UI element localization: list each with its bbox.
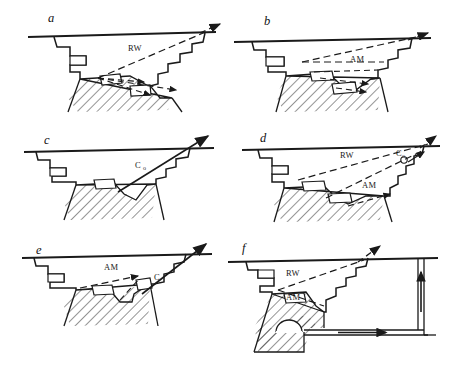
panel-c-letter: c bbox=[44, 133, 50, 147]
figure-open-pit-schemes: a RW bbox=[0, 0, 455, 370]
bench-notch-1 bbox=[92, 285, 114, 295]
bench-pocket-left bbox=[48, 274, 64, 282]
label-am: AM bbox=[350, 54, 364, 64]
label-c: C bbox=[154, 272, 160, 282]
flow-line-rw-main bbox=[98, 31, 208, 78]
label-co: C bbox=[135, 160, 141, 170]
label-am: AM bbox=[286, 292, 300, 302]
panel-c: c C o bbox=[0, 122, 228, 237]
right-bench-profile bbox=[150, 33, 205, 86]
bench-pocket-left bbox=[272, 166, 288, 174]
bench-pocket-left bbox=[70, 56, 86, 65]
panel-e-letter: e bbox=[36, 243, 42, 257]
label-rw: RW bbox=[128, 43, 142, 53]
panel-e: e AM C bbox=[0, 232, 228, 370]
panel-f: f bbox=[228, 232, 455, 370]
bench-notch-1 bbox=[94, 179, 116, 189]
bench-pocket-left bbox=[266, 57, 284, 66]
label-am: AM bbox=[362, 180, 376, 190]
rock-right-edge bbox=[172, 98, 182, 112]
ground-line bbox=[28, 32, 216, 37]
bench-pocket-left bbox=[50, 168, 66, 176]
label-rw: RW bbox=[340, 150, 354, 160]
panel-d-letter: d bbox=[260, 131, 267, 145]
rock-right-edge bbox=[156, 184, 164, 220]
panel-a-letter: a bbox=[48, 11, 54, 25]
ground-line bbox=[22, 254, 212, 258]
label-co-subscript: o bbox=[402, 153, 405, 159]
bench-notch-2 bbox=[332, 82, 357, 94]
panel-b-letter: b bbox=[264, 14, 270, 28]
bench-pocket-left bbox=[258, 270, 274, 278]
panel-b: b AM bbox=[228, 0, 455, 125]
label-rw: RW bbox=[286, 268, 300, 278]
rock-right-edge bbox=[150, 284, 158, 326]
panel-d: d RW AM C o bbox=[228, 122, 455, 237]
bench-notch-2 bbox=[328, 193, 352, 203]
label-co-subscript: o bbox=[143, 165, 146, 171]
right-bench-profile bbox=[371, 38, 412, 79]
bench-notch-1 bbox=[302, 181, 326, 191]
rock-right-edge bbox=[380, 78, 388, 112]
flow-line-c-solid bbox=[142, 244, 206, 294]
panel-f-letter: f bbox=[242, 241, 247, 255]
rock-right-edge bbox=[384, 196, 392, 222]
panel-a: a RW bbox=[0, 0, 228, 125]
flow-line-co-solid bbox=[118, 136, 208, 192]
ground-line bbox=[228, 258, 438, 262]
label-am: AM bbox=[104, 262, 118, 272]
